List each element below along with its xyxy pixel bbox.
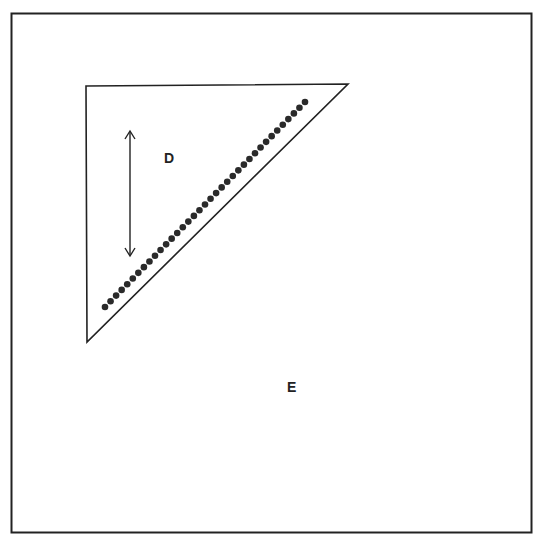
dot	[113, 292, 120, 299]
dot	[191, 213, 198, 220]
dot	[124, 281, 131, 288]
dot	[296, 104, 303, 111]
outer-region-box	[12, 14, 532, 533]
dot	[235, 167, 242, 174]
dot	[229, 173, 236, 180]
dot	[102, 304, 109, 311]
dot	[302, 99, 309, 106]
dot	[241, 161, 248, 168]
dot	[213, 190, 220, 197]
dot	[224, 178, 231, 185]
dot	[107, 298, 114, 305]
dot	[207, 196, 214, 203]
dot	[218, 184, 225, 191]
dot	[118, 287, 125, 294]
dot	[291, 110, 298, 117]
dot	[129, 275, 136, 282]
dot	[252, 150, 259, 157]
dot	[257, 144, 264, 151]
dot	[141, 264, 148, 271]
dot	[179, 224, 186, 231]
dot	[268, 133, 275, 140]
dot	[135, 270, 142, 277]
label-e: E	[287, 379, 296, 395]
dot	[146, 258, 153, 265]
dot	[246, 156, 253, 163]
dot	[163, 241, 170, 248]
dot	[196, 207, 203, 214]
dot	[263, 139, 270, 146]
dot	[185, 218, 192, 225]
dot	[285, 116, 292, 123]
dot-line	[102, 99, 309, 311]
dot	[202, 201, 209, 208]
diagram-canvas: D E	[0, 0, 541, 545]
dot	[168, 235, 175, 242]
dot	[274, 127, 281, 134]
dot	[157, 247, 164, 254]
inner-triangle-region	[86, 84, 348, 342]
dot	[174, 230, 181, 237]
dot	[152, 252, 159, 259]
double-arrow-icon	[125, 131, 135, 256]
label-d: D	[164, 150, 174, 166]
dot	[279, 121, 286, 128]
